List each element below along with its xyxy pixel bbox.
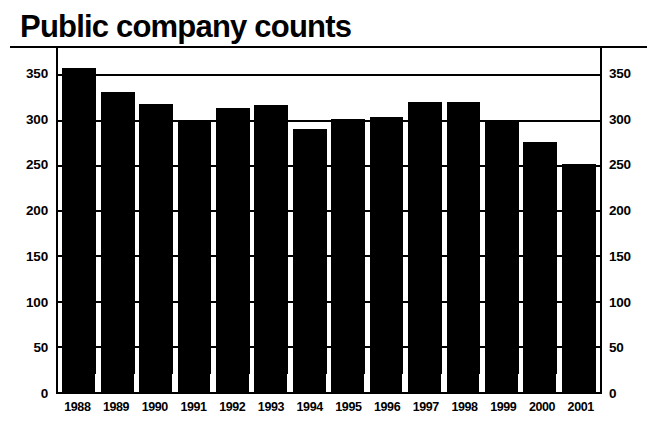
y-axis-tick-label: 0	[41, 387, 48, 401]
bar	[331, 119, 365, 392]
plot-area	[56, 28, 602, 394]
x-axis-tick-label: 1995	[329, 400, 368, 414]
y-axis-tick-label: 200	[609, 204, 631, 218]
bar	[62, 68, 96, 392]
bar	[485, 120, 519, 392]
bar-slot	[559, 30, 597, 392]
y-axis-right: 050100150200250300350400	[609, 28, 653, 394]
bar-base-notch	[402, 374, 406, 392]
bar	[408, 102, 442, 392]
y-axis-tick-label: 250	[609, 158, 631, 172]
y-axis-tick-label: 50	[33, 341, 48, 355]
y-axis-tick-label: 350	[609, 67, 631, 81]
y-axis-tick-label: 250	[26, 158, 48, 172]
y-axis-tick-label: 100	[26, 296, 48, 310]
bar-slot	[98, 30, 136, 392]
bar	[447, 102, 481, 392]
y-axis-tick-label: 350	[26, 67, 48, 81]
bar-slot	[521, 30, 559, 392]
x-axis-tick-label: 2000	[523, 400, 562, 414]
y-axis-tick-label: 300	[26, 113, 48, 127]
bar-base-notch	[95, 374, 99, 392]
y-axis-tick-label: 50	[609, 341, 624, 355]
bar-base-notch	[210, 374, 214, 392]
bar	[254, 105, 288, 392]
title-box: Public company counts	[10, 6, 647, 48]
x-axis-tick-label: 1997	[406, 400, 445, 414]
x-axis-tick-label: 1998	[445, 400, 484, 414]
bar-base-notch	[364, 374, 368, 392]
y-axis-left: 050100150200250300350400	[4, 28, 48, 394]
x-axis-tick-label: 2001	[561, 400, 600, 414]
bar-base-notch	[479, 374, 483, 392]
y-axis-tick-label: 150	[609, 250, 631, 264]
x-axis-labels: 1988198919901991199219931994199519961997…	[56, 400, 602, 414]
bar-base-notch	[287, 374, 291, 392]
x-axis-tick-label: 1992	[213, 400, 252, 414]
y-axis-tick-label: 0	[609, 387, 616, 401]
bar-slot	[214, 30, 252, 392]
bar-base-notch	[249, 374, 253, 392]
bar	[293, 129, 327, 392]
bar-series	[58, 30, 600, 392]
bar-slot	[406, 30, 444, 392]
bar-chart-figure: 050100150200250300350400 050100150200250…	[0, 0, 657, 439]
bar-slot	[175, 30, 213, 392]
bar	[178, 120, 212, 392]
bar	[216, 108, 250, 392]
bar-slot	[367, 30, 405, 392]
y-axis-tick-label: 300	[609, 113, 631, 127]
x-axis-tick-label: 1988	[58, 400, 97, 414]
bar-slot	[483, 30, 521, 392]
x-axis-tick-label: 1990	[135, 400, 174, 414]
bar-base-notch	[441, 374, 445, 392]
bar	[139, 104, 173, 392]
bar	[101, 92, 135, 392]
bar-slot	[329, 30, 367, 392]
x-axis-tick-label: 1999	[484, 400, 523, 414]
bar	[562, 164, 596, 392]
bar-slot	[444, 30, 482, 392]
y-axis-tick-label: 200	[26, 204, 48, 218]
bar-slot	[60, 30, 98, 392]
x-axis-tick-label: 1991	[174, 400, 213, 414]
x-axis-tick-label: 1989	[97, 400, 136, 414]
bar-slot	[252, 30, 290, 392]
bar-slot	[137, 30, 175, 392]
y-axis-tick-label: 100	[609, 296, 631, 310]
bar-base-notch	[556, 374, 560, 392]
y-axis-tick-label: 150	[26, 250, 48, 264]
bar-base-notch	[326, 374, 330, 392]
bar-base-notch	[518, 374, 522, 392]
x-axis-tick-label: 1994	[290, 400, 329, 414]
x-axis-tick-label: 1996	[368, 400, 407, 414]
page-title: Public company counts	[20, 11, 351, 42]
x-axis-tick-label: 1993	[252, 400, 291, 414]
bar	[523, 142, 557, 392]
bar-slot	[291, 30, 329, 392]
bar-base-notch	[134, 374, 138, 392]
bar	[370, 117, 404, 392]
bar-base-notch	[172, 374, 176, 392]
